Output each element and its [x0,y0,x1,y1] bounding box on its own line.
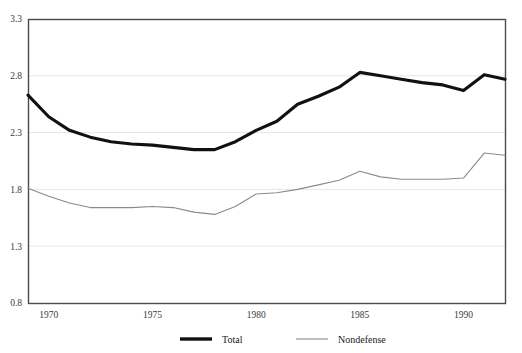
y-tick-label-1.8: 1.8 [10,185,22,195]
legend-label-nondefense: Nondefense [338,334,386,345]
y-tick-label-0.8: 0.8 [10,298,22,308]
x-tick-label-1990: 1990 [454,310,473,320]
x-tick-label-1970: 1970 [39,310,58,320]
x-tick-label-1980: 1980 [247,310,266,320]
y-tick-label-3.3: 3.3 [10,14,22,24]
line-chart: 3.32.82.31.81.30.8 19701975198019851990 … [0,0,522,353]
y-tick-label-1.3: 1.3 [10,242,22,252]
y-tick-label-2.8: 2.8 [10,71,22,81]
x-tick-label-1985: 1985 [350,310,369,320]
clipped-title-text [0,0,522,1]
x-tick-label-1975: 1975 [143,310,162,320]
chart-figure: 3.32.82.31.81.30.8 19701975198019851990 … [0,0,522,353]
chart-background [0,0,522,353]
y-tick-label-2.3: 2.3 [10,128,22,138]
legend-label-total: Total [222,334,243,345]
